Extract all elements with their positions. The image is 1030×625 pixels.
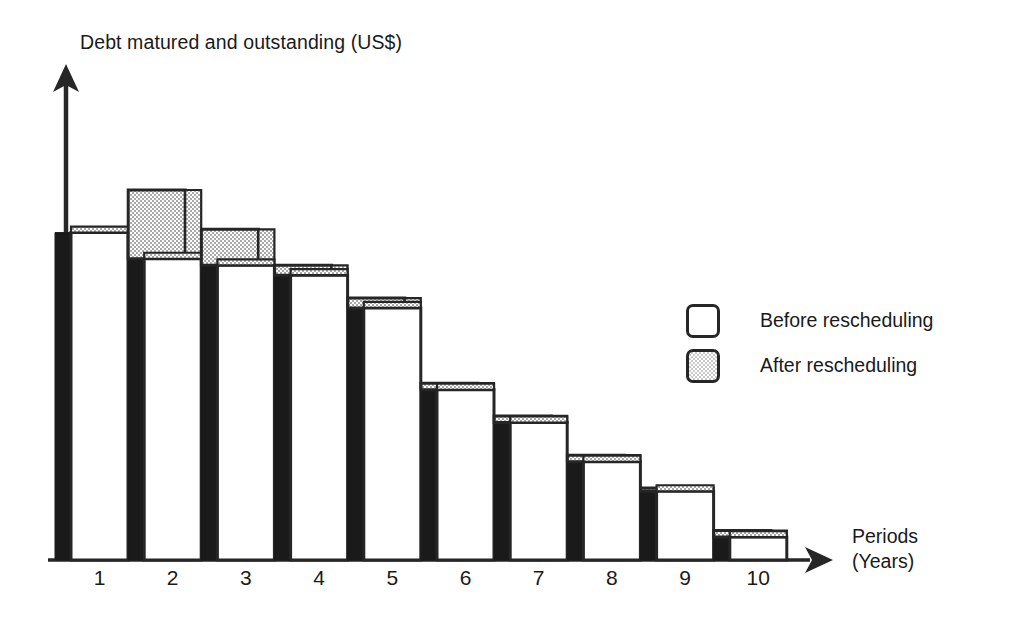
bar-before [730, 537, 787, 560]
bar-shadow [201, 229, 217, 560]
bar-period-4 [275, 265, 348, 560]
bar-after [128, 190, 185, 259]
legend-swatch-after [686, 349, 720, 383]
x-tick-10: 10 [738, 566, 778, 590]
legend-swatch-before [686, 304, 720, 338]
bar-shadow [641, 488, 657, 560]
legend-item-before: Before rescheduling [686, 298, 933, 343]
bar-period-2 [128, 190, 201, 560]
x-tick-6: 6 [446, 566, 486, 590]
bar-top-face [144, 253, 201, 259]
bar-top-face [71, 227, 128, 233]
bar-top-face [730, 531, 787, 537]
bar-period-8 [567, 455, 640, 560]
bar-period-1 [55, 227, 128, 560]
legend-label-before: Before rescheduling [760, 309, 933, 332]
bar-before [583, 462, 640, 560]
bar-top-face [364, 302, 421, 308]
x-tick-7: 7 [519, 566, 559, 590]
legend-label-after: After rescheduling [760, 354, 917, 377]
x-tick-3: 3 [226, 566, 266, 590]
legend: Before rescheduling After rescheduling [686, 298, 933, 388]
x-tick-5: 5 [372, 566, 412, 590]
bar-before [510, 422, 567, 560]
bar-period-5 [348, 298, 421, 560]
bar-top-face [437, 384, 494, 390]
bar-before [291, 275, 348, 560]
bar-top-face [510, 416, 567, 422]
bar-period-7 [494, 416, 567, 560]
bar-top-face [657, 485, 714, 491]
bar-shadow [494, 416, 510, 560]
bar-top-face [291, 269, 348, 275]
bar-shadow [55, 233, 71, 560]
chart-root: Debt matured and outstanding (US$) Perio… [0, 0, 1030, 625]
legend-item-after: After rescheduling [686, 343, 933, 388]
bar-period-3 [201, 229, 274, 560]
bar-shadow [421, 383, 437, 560]
x-tick-2: 2 [153, 566, 193, 590]
bar-top-face [583, 456, 640, 462]
bar-group [55, 190, 787, 560]
x-tick-9: 9 [665, 566, 705, 590]
bar-before [657, 491, 714, 560]
bar-after-side [185, 190, 201, 259]
bar-period-6 [421, 383, 494, 560]
bar-top-face [217, 259, 274, 265]
bar-shadow [275, 265, 291, 560]
bar-period-9 [641, 485, 714, 560]
bar-shadow [348, 298, 364, 560]
x-tick-8: 8 [592, 566, 632, 590]
bar-before [71, 233, 128, 560]
bar-before [217, 265, 274, 560]
bar-before [437, 390, 494, 560]
bar-before [364, 308, 421, 560]
bar-period-10 [714, 531, 787, 560]
x-tick-4: 4 [299, 566, 339, 590]
bar-before [144, 259, 201, 560]
x-tick-1: 1 [80, 566, 120, 590]
bar-shadow [567, 455, 583, 560]
